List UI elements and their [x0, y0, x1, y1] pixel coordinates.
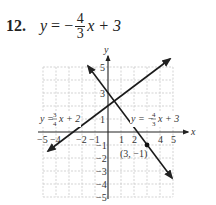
y-tick: −4 — [96, 179, 107, 190]
line1-lhs: y = — [39, 113, 54, 124]
line-y-3-4x-plus-2 — [48, 59, 170, 151]
y-tick: 3 — [100, 88, 105, 99]
line2-num: 4 — [152, 111, 156, 119]
line2-lhs: y = − — [130, 113, 154, 124]
x-tick: 4 — [158, 134, 163, 145]
y-tick: 5 — [100, 62, 105, 73]
y-tick: −1 — [96, 140, 107, 151]
x-tick: 1 — [119, 134, 124, 145]
x-tick: 5 — [171, 134, 176, 145]
y-tick: −5 — [96, 192, 107, 203]
line2-den: 3 — [152, 120, 156, 128]
y-tick: −3 — [96, 166, 107, 177]
line1-label: y = 3 4 x + 2 — [39, 111, 81, 128]
point-3-neg1 — [145, 143, 150, 148]
line1-rest: x + 2 — [58, 113, 80, 124]
x-tick: 2 — [132, 134, 137, 145]
y-tick: 1 — [100, 114, 105, 125]
line1-den: 4 — [53, 120, 57, 128]
x-tick: −5 — [37, 134, 48, 145]
y-axis-label: y — [103, 44, 109, 55]
line1-num: 3 — [53, 111, 57, 119]
line2-rest: x + 3 — [157, 113, 179, 124]
svg-text:y =: y = — [39, 113, 54, 124]
line2-label: y = − 4 3 x + 3 — [130, 111, 182, 128]
y-tick: −2 — [96, 153, 107, 164]
graph: x y −5 −4 −2 −1 1 2 4 5 5 3 1 −1 −2 −3 −… — [0, 0, 216, 205]
point-label: (3, −1) — [120, 148, 147, 160]
x-axis-label: x — [190, 126, 196, 137]
x-tick: −2 — [76, 134, 87, 145]
